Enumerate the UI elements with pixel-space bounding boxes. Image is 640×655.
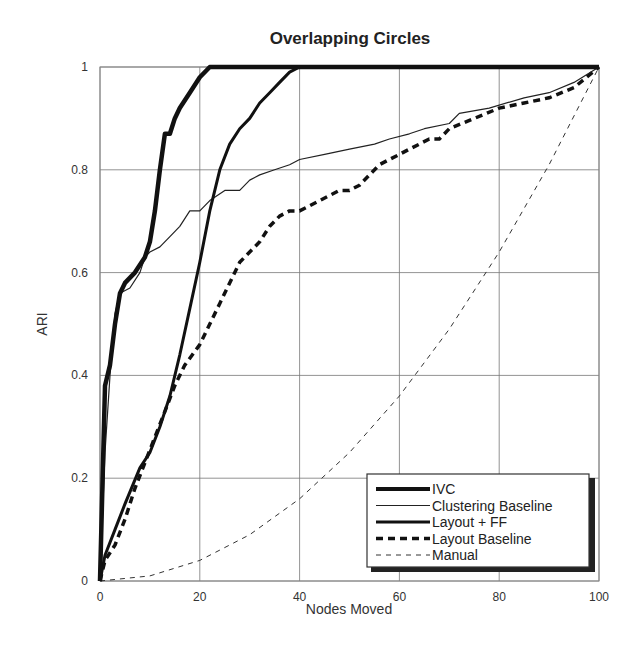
x-tick-label: 100	[589, 590, 609, 604]
chart-title: Overlapping Circles	[270, 29, 431, 48]
y-axis-label: ARI	[34, 312, 50, 335]
x-tick-label: 40	[293, 590, 307, 604]
y-tick-label: 0	[81, 574, 88, 588]
y-tick-label: 0.8	[71, 163, 88, 177]
x-tick-label: 20	[193, 590, 207, 604]
legend-label: Clustering Baseline	[432, 498, 553, 514]
y-tick-label: 0.6	[71, 266, 88, 280]
legend: IVCClustering BaselineLayout + FFLayout …	[367, 474, 595, 572]
chart: Overlapping Circles 00.20.40.60.81 02040…	[0, 0, 640, 655]
x-tick-label: 0	[97, 590, 104, 604]
legend-label: Manual	[432, 547, 478, 563]
x-tick-label: 80	[493, 590, 507, 604]
y-tick-label: 0.4	[71, 368, 88, 382]
y-axis-ticks: 00.20.40.60.81	[71, 60, 88, 588]
legend-label: Layout Baseline	[432, 531, 532, 547]
x-tick-label: 60	[393, 590, 407, 604]
legend-label: IVC	[432, 481, 455, 497]
legend-label: Layout + FF	[432, 514, 507, 530]
y-tick-label: 0.2	[71, 471, 88, 485]
y-tick-label: 1	[81, 60, 88, 74]
x-axis-label: Nodes Moved	[306, 601, 392, 617]
